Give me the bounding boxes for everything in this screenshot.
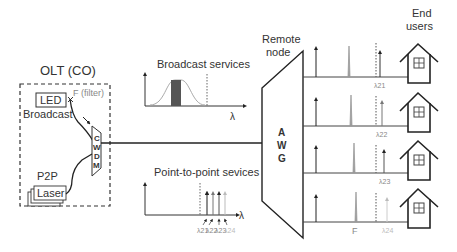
cwdm-letter-d: D [94, 152, 100, 161]
channel-lambda: λ24 [382, 227, 393, 234]
broadcast-lambda-label: λ [230, 111, 235, 122]
broadcast-spectrum: Broadcast services λ [145, 58, 250, 122]
cwdm-letter-m: M [93, 161, 100, 170]
filter-f-label: F [352, 226, 358, 236]
house-icon [400, 141, 438, 180]
channel-3: λ23 [303, 143, 408, 185]
channel-4: F λ24 [303, 192, 408, 236]
broadcast-label: Broadcast [23, 108, 73, 120]
broadcast-peak [353, 143, 355, 173]
channel-lambda: λ21 [374, 82, 385, 89]
awg-letter-g: G [278, 153, 286, 164]
awg-letter-a: A [278, 127, 285, 138]
wdm-pon-diagram: OLT (CO) LED F (filter) Broadcast C W D … [0, 0, 457, 252]
olt-block: OLT (CO) LED F (filter) Broadcast C W D … [20, 63, 110, 206]
remote-node: Remote node A W G [262, 33, 303, 238]
channel-1: λ21 [303, 43, 408, 89]
end-users-title-1: End [412, 7, 432, 19]
pointer-arrows [203, 220, 227, 225]
remote-node-title-1: Remote [262, 33, 301, 45]
broadcast-peak [348, 46, 350, 77]
p2p-services-title: Point-to-point sevices [154, 166, 260, 178]
p2p-label: P2P [37, 170, 58, 182]
broadcast-peak [355, 192, 357, 222]
broadcast-band [171, 80, 181, 106]
channel-2: λ22 [303, 95, 408, 138]
laser-label: Laser [37, 187, 65, 199]
broadcast-fiber [70, 99, 93, 141]
led-label: LED [40, 94, 61, 106]
lambda-24: λ24 [224, 227, 235, 234]
end-users: End users [400, 7, 438, 228]
broadcast-services-title: Broadcast services [157, 58, 250, 70]
filter-label: F (filter) [73, 88, 104, 98]
channel-lambda: λ23 [379, 178, 390, 185]
p2p-spectrum: Point-to-point sevices λ λ21 λ22 λ23 λ24 [145, 166, 260, 234]
remote-node-title-2: node [266, 46, 290, 58]
cwdm-letter-c: C [94, 134, 100, 143]
broadcast-peak [350, 95, 352, 126]
channel-lambda: λ22 [376, 131, 387, 138]
awg-letter-w: W [277, 140, 287, 151]
p2p-fiber [66, 154, 92, 194]
end-users-title-2: users [406, 20, 433, 32]
cwdm-letter-w: W [93, 143, 101, 152]
p2p-lambda-label: λ [239, 210, 244, 221]
olt-title: OLT (CO) [40, 63, 96, 78]
broadcast-arrow-icon [83, 117, 89, 123]
